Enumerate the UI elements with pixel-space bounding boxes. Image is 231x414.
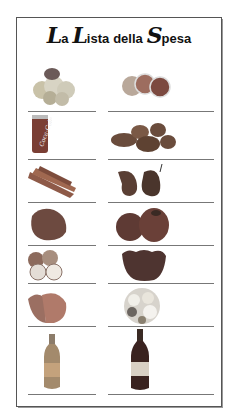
title-initial: L [72,22,86,48]
oranges-icon [120,66,172,102]
wine-bottle-icon [128,328,152,392]
page-title: La Lista della Spesa [16,22,222,48]
carrots-icon [26,164,80,200]
title-word: della [113,31,143,46]
title-word: a [61,31,68,46]
write-line [108,283,214,284]
write-line [108,394,214,395]
write-line [28,159,96,160]
flowers-icon [120,286,164,328]
write-line [28,326,96,327]
peppers-icon [112,205,174,243]
write-line [28,202,96,203]
coca-cola-can-icon: Coca-Cola [30,113,52,155]
strawberries-icon [118,246,170,282]
title-word: ista [87,31,109,46]
write-line [28,394,96,395]
write-line [28,283,96,284]
write-line [108,326,214,327]
title-initial: L [47,22,61,48]
title-word: pesa [162,31,192,46]
apples-icon [24,248,68,282]
title-initial: S [147,22,162,48]
write-line [108,111,214,112]
meat-icon [26,206,70,242]
write-line [108,202,214,203]
mixed-fruit-icon [28,64,80,106]
write-line [28,245,96,246]
mineral-water-bottle-icon [40,333,64,391]
potatoes-icon [110,118,182,156]
pears-icon [114,162,170,200]
salmon-steak-icon [26,289,72,325]
write-line [108,159,214,160]
write-line [28,111,96,112]
